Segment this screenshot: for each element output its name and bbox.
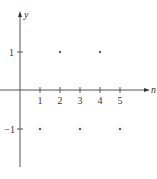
y-axis-label: y xyxy=(23,9,29,20)
x-tick-label-2: 2 xyxy=(58,95,63,106)
y-tick-label-pos1: 1 xyxy=(9,47,14,58)
scatter-chart: n 1 2 3 4 5 y 1 −1 xyxy=(0,0,157,179)
data-point-n3 xyxy=(79,128,82,131)
data-point-n5 xyxy=(119,128,122,131)
data-point-n1 xyxy=(39,128,42,131)
x-tick-label-5: 5 xyxy=(118,95,123,106)
data-point-n2 xyxy=(59,51,62,54)
y-axis: y 1 −1 xyxy=(4,9,29,167)
x-axis-arrow-icon xyxy=(144,88,150,92)
x-tick-label-1: 1 xyxy=(38,95,43,106)
x-axis: n 1 2 3 4 5 xyxy=(0,84,156,106)
x-tick-label-3: 3 xyxy=(78,95,83,106)
data-point-n4 xyxy=(99,51,102,54)
x-tick-label-4: 4 xyxy=(98,95,103,106)
y-tick-label-neg1: −1 xyxy=(4,124,15,135)
x-axis-label: n xyxy=(151,84,156,95)
y-axis-arrow-icon xyxy=(18,11,22,17)
